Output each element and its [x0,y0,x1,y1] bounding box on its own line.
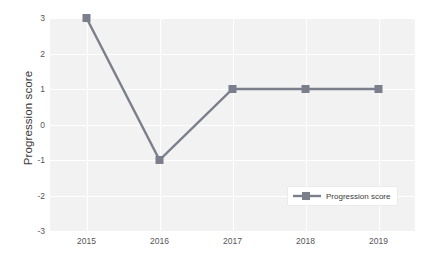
y-axis-tick-label: 3 [19,13,45,23]
y-axis-tick-label: 2 [19,49,45,59]
legend-line-marker-icon [293,191,321,201]
data-point-marker [375,85,383,93]
top-cropped-strip [0,0,424,5]
x-axis-tick-label: 2018 [286,236,326,246]
x-axis-tick-label: 2017 [213,236,253,246]
data-point-marker [83,14,91,22]
y-axis-tick-label: 0 [19,120,45,130]
x-axis-tick-label: 2016 [140,236,180,246]
y-axis-tick-label: -1 [19,155,45,165]
y-axis-tick-label: -3 [19,226,45,236]
y-axis-tick-label: -2 [19,191,45,201]
x-axis-tick-label: 2015 [67,236,107,246]
legend-label-progression-score: Progression score [326,192,390,201]
gridline-horizontal [50,231,415,232]
data-point-marker [156,156,164,164]
chart-figure: Progression score 3210-1-2-3 20152016201… [0,0,424,259]
y-axis-tick-label: 1 [19,84,45,94]
bottom-cropped-strip [0,252,424,259]
x-axis-tick-label: 2019 [359,236,399,246]
data-point-marker [302,85,310,93]
chart-legend: Progression score [288,187,397,205]
data-point-marker [229,85,237,93]
